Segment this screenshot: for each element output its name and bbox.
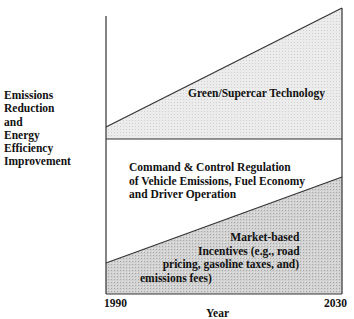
label-line: Command & Control Regulation [129, 161, 305, 175]
y-label-line: Improvement [4, 155, 71, 168]
label-line: Incentives (e.g., road [190, 245, 300, 259]
green-technology-region [106, 8, 342, 139]
y-label-line: Efficiency [4, 142, 71, 155]
label-line: and Driver Operation [129, 188, 305, 202]
command-control-label: Command & Control Regulation of Vehicle … [129, 161, 305, 202]
green-technology-label: Green/Supercar Technology [188, 87, 325, 101]
market-incentives-label: Market-based Incentives (e.g., road pric… [190, 231, 300, 285]
x-axis-label: Year [206, 307, 229, 319]
y-label-line: Energy [4, 129, 71, 142]
y-label-line: and [4, 116, 71, 129]
label-line: Market-based [190, 231, 300, 245]
y-label-line: Emissions [4, 89, 71, 102]
x-tick-1990: 1990 [104, 297, 127, 309]
label-line: emissions fees) [140, 272, 300, 286]
y-label-line: Reduction [4, 102, 71, 115]
label-line: pricing, gasoline taxes, and) [162, 258, 300, 272]
y-axis-label: Emissions Reduction and Energy Efficienc… [4, 89, 71, 169]
label-line: of Vehicle Emissions, Fuel Economy [129, 175, 305, 189]
x-tick-2030: 2030 [324, 297, 347, 309]
